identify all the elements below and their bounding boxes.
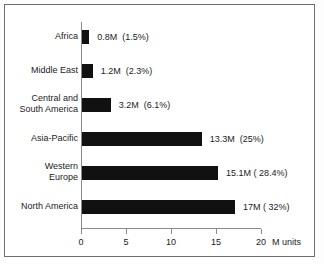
category-label-line: Europe — [0, 172, 78, 183]
bar — [82, 64, 93, 78]
value-label: 1.2M (2.3%) — [101, 66, 153, 76]
category-label: North America — [0, 201, 78, 212]
bar — [82, 200, 235, 214]
bar — [82, 98, 111, 112]
x-axis-tick-label: 10 — [159, 237, 183, 247]
category-label-line: Asia-Pacific — [0, 133, 78, 144]
bar — [82, 132, 202, 146]
category-label: WesternEurope — [0, 161, 78, 183]
category-label: Asia-Pacific — [0, 133, 78, 144]
category-label-line: South America — [0, 104, 78, 115]
value-label: 13.3M (25%) — [210, 134, 264, 144]
x-axis-tick — [171, 229, 172, 234]
chart-plot-area: 05101520 M units Africa0.8M (1.5%)Middle… — [0, 0, 324, 264]
x-axis-tick-label: 15 — [204, 237, 228, 247]
category-label-line: Africa — [0, 31, 78, 42]
value-label: 17M ( 32%) — [243, 202, 290, 212]
x-axis-tick — [261, 229, 262, 234]
y-axis-line — [81, 22, 82, 229]
chart-figure: 05101520 M units Africa0.8M (1.5%)Middle… — [0, 0, 324, 264]
value-label: 15.1M ( 28.4%) — [226, 168, 288, 178]
x-axis-tick-label: 0 — [69, 237, 93, 247]
x-axis-tick-label: 5 — [114, 237, 138, 247]
category-label-line: Middle East — [0, 65, 78, 76]
category-label-line: Central and — [0, 93, 78, 104]
x-axis-unit-label: M units — [272, 237, 301, 247]
x-axis-tick — [126, 229, 127, 234]
bar — [82, 166, 218, 180]
x-axis-tick-label: 20 — [249, 237, 273, 247]
category-label-line: North America — [0, 201, 78, 212]
x-axis-tick — [216, 229, 217, 234]
value-label: 3.2M (6.1%) — [119, 100, 171, 110]
bar — [82, 30, 89, 44]
value-label: 0.8M (1.5%) — [97, 32, 149, 42]
x-axis-tick — [81, 229, 82, 234]
category-label-line: Western — [0, 161, 78, 172]
category-label: Central andSouth America — [0, 93, 78, 115]
category-label: Africa — [0, 31, 78, 42]
category-label: Middle East — [0, 65, 78, 76]
